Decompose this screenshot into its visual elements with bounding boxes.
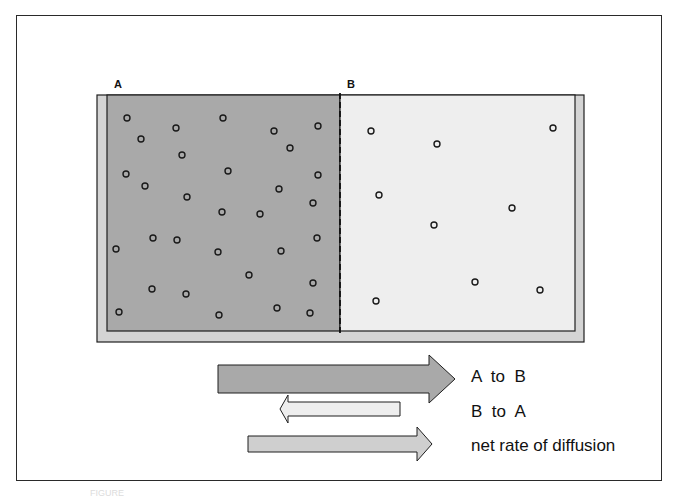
diffusion-diagram [0,0,681,501]
arrow-a-to-b-label: A to B [471,367,526,387]
arrow-a-to-b-icon [218,355,455,403]
arrow-b-to-a-label: B to A [471,402,526,422]
arrow-b-to-a-icon [280,395,400,423]
chamber-b [340,95,575,331]
figure-caption: FIGURE [90,488,124,498]
arrow-net-diffusion-icon [248,427,432,461]
chamber-a [107,95,340,331]
arrow-net-label: net rate of diffusion [471,436,615,456]
